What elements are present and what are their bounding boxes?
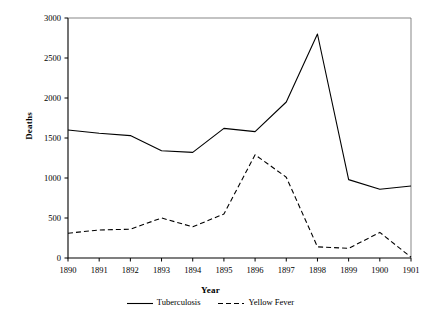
x-tick-label: 1897 (278, 265, 295, 275)
data-series-group (68, 34, 411, 257)
y-tick-label: 0 (57, 253, 61, 263)
x-tick-label: 1898 (309, 265, 326, 275)
legend-label: Tuberculosis (157, 298, 201, 307)
legend-label: Yellow Fever (248, 298, 294, 307)
x-tick-label: 1894 (184, 265, 202, 275)
series-line-yellow-fever (68, 155, 411, 257)
legend-item-yellow-fever: Yellow Fever (218, 298, 294, 307)
x-tick-label: 1895 (215, 265, 232, 275)
x-axis-ticks: 1890189118921893189418951896189718981899… (60, 258, 420, 275)
x-tick-label: 1891 (91, 265, 108, 275)
x-tick-label: 1896 (247, 265, 264, 275)
y-tick-label: 1500 (44, 133, 61, 143)
axis-frame (68, 18, 411, 258)
x-tick-label: 1893 (153, 265, 170, 275)
y-tick-label: 500 (48, 213, 61, 223)
legend-item-tuberculosis: Tuberculosis (127, 298, 201, 307)
y-tick-label: 2000 (44, 93, 61, 103)
x-tick-label: 1899 (340, 265, 357, 275)
x-tick-label: 1890 (60, 265, 77, 275)
chart-legend: Tuberculosis Yellow Fever (0, 298, 421, 307)
x-tick-label: 1892 (122, 265, 139, 275)
y-tick-label: 2500 (44, 53, 61, 63)
series-line-tuberculosis (68, 34, 411, 189)
y-tick-label: 1000 (44, 173, 61, 183)
line-chart: Deaths Year 050010001500200025003000 189… (0, 0, 421, 314)
legend-swatch-solid-icon (127, 299, 153, 306)
legend-swatch-dashed-icon (218, 299, 244, 306)
x-tick-label: 1900 (371, 265, 388, 275)
plot-area: 050010001500200025003000 189018911892189… (0, 0, 421, 285)
x-tick-label: 1901 (403, 265, 420, 275)
x-axis-title: Year (0, 285, 421, 295)
y-axis-ticks: 050010001500200025003000 (44, 13, 68, 263)
y-tick-label: 3000 (44, 13, 61, 23)
